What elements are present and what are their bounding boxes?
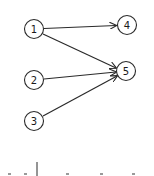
node-5: 5 xyxy=(117,62,136,81)
node-label-4: 4 xyxy=(124,20,130,31)
node-4: 4 xyxy=(118,16,137,35)
node-label-1: 1 xyxy=(31,24,37,35)
node-label-3: 3 xyxy=(31,116,37,127)
partial-bottom-marks xyxy=(8,173,135,175)
edge-1-5 xyxy=(43,34,116,68)
node-label-2: 2 xyxy=(31,75,37,86)
node-3: 3 xyxy=(25,112,44,131)
edge-3-5 xyxy=(43,76,117,116)
graph-diagram: 1 2 3 4 5 xyxy=(0,0,154,176)
node-2: 2 xyxy=(25,71,44,90)
edge-2-5 xyxy=(44,72,116,79)
node-label-5: 5 xyxy=(123,66,129,77)
node-1: 1 xyxy=(25,20,44,39)
edge-1-4 xyxy=(44,26,116,29)
